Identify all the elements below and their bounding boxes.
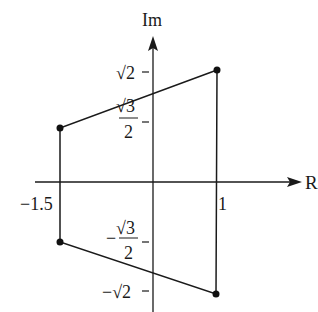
label-sqrt2: √2 [116, 63, 135, 83]
complex-plane-diagram: R Im √2 √3 2 − √3 2 −√2 −1.5 1 [0, 0, 318, 312]
real-axis-label: R [305, 172, 318, 193]
vertex-c-point-icon [57, 239, 64, 246]
svg-text:√2: √2 [116, 63, 135, 83]
svg-text:2: 2 [124, 122, 133, 142]
vertex-a-point-icon [214, 67, 221, 74]
label-neg-1-5: −1.5 [20, 194, 53, 214]
imaginary-axis-label: Im [142, 10, 162, 30]
label-neg-sqrt2: −√2 [102, 282, 131, 302]
label-1: 1 [218, 194, 227, 214]
vertex-d-point-icon [213, 291, 220, 298]
svg-text:2: 2 [124, 243, 133, 263]
vertex-b-point-icon [57, 125, 64, 132]
label-neg-sqrt3-over-2: − √3 2 [106, 218, 138, 263]
svg-text:−: − [106, 228, 116, 248]
svg-text:−√2: −√2 [102, 282, 131, 302]
svg-text:√3: √3 [116, 218, 135, 238]
